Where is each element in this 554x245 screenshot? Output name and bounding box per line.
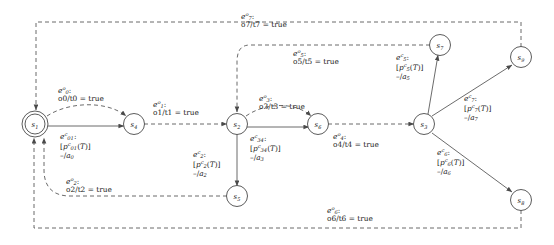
edge-label-e0o: eo0: o0/t0 = true xyxy=(58,85,104,104)
edge-label-e6o: eo6: o6/t6 = true xyxy=(327,205,373,224)
state-s7[interactable]: s7 xyxy=(430,35,451,56)
state-s2[interactable]: s2 xyxy=(227,114,248,135)
edge-label-e2o: eo2: o2/t2 = true xyxy=(66,176,112,195)
edge-label-e4o: eo4: o4/t4 = true xyxy=(333,131,379,150)
edge-label-e3o: eo3: o3/t3 = true xyxy=(259,93,305,112)
edge-s3-s7-controllable xyxy=(428,55,438,114)
edge-label-e01c: ec01: [pc01(T)] –/a0 xyxy=(60,131,91,160)
edge-label-e1o: eo1: o1/t1 = true xyxy=(153,99,199,118)
edge-label-e34c: ec34: [pc34(T)] –/a3 xyxy=(250,133,281,162)
state-machine-graph: s1 s4 s2 s6 s3 s7 xyxy=(0,0,554,245)
edge-label-e7c: ec7: [pc7(T)] –/a7 xyxy=(464,93,491,122)
state-s8[interactable]: s8 xyxy=(511,190,532,211)
state-s5[interactable]: s5 xyxy=(227,186,248,207)
state-s9[interactable]: s9 xyxy=(511,47,532,68)
edge-label-e5o: eo5: o5/t5 = true xyxy=(293,48,339,67)
state-s3[interactable]: s3 xyxy=(414,114,435,135)
state-s6[interactable]: s6 xyxy=(308,114,329,135)
edge-label-e7o: eo7: o7/t7 = true xyxy=(241,11,287,30)
state-s4[interactable]: s4 xyxy=(124,114,145,135)
edge-label-e2c: ec2: [pc2(T)] –/a2 xyxy=(193,149,220,178)
edge-s1-s4-observable xyxy=(47,105,126,116)
edge-label-e5c: ec5: [pc5(T)] –/a5 xyxy=(396,52,423,81)
diagram-canvas: s1 s4 s2 s6 s3 s7 xyxy=(0,0,554,245)
edge-label-e6c: ec6: [pc6(T)] –/a6 xyxy=(437,147,464,176)
state-s1[interactable]: s1 xyxy=(22,111,48,137)
